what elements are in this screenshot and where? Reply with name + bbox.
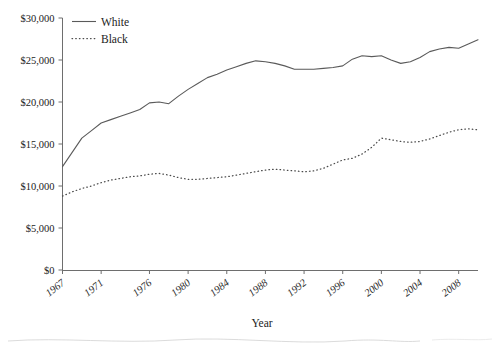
y-tick-label: $30,000 [20, 13, 54, 24]
x-tick-label: 1984 [208, 276, 232, 298]
x-tick-label: 1971 [82, 277, 105, 299]
x-tick-label: 1996 [324, 276, 348, 298]
x-tick-label: 2000 [362, 276, 386, 298]
legend: White Black [72, 16, 129, 45]
x-axis-title: Year [251, 317, 272, 329]
figure-container: $0$5,000$10,000$15,000$20,000$25,000$30,… [0, 0, 495, 348]
x-tick-label: 1992 [285, 276, 309, 298]
legend-label-black: Black [101, 33, 128, 45]
y-axis-ticks [59, 18, 63, 270]
y-tick-label: $5,000 [26, 223, 55, 234]
line-chart: $0$5,000$10,000$15,000$20,000$25,000$30,… [0, 0, 495, 348]
scan-artifact-line-right [432, 339, 492, 340]
x-tick-label: 1980 [169, 276, 193, 298]
y-tick-label: $0 [44, 265, 55, 276]
series-line-white [63, 40, 479, 167]
x-tick-label: 2008 [440, 276, 464, 298]
y-tick-label: $20,000 [20, 97, 54, 108]
x-tick-label: 1976 [130, 276, 154, 298]
series-line-black [63, 129, 479, 196]
scan-artifact-line [8, 339, 420, 342]
x-tick-label: 1988 [246, 276, 270, 298]
y-tick-label: $10,000 [20, 181, 54, 192]
y-tick-label: $15,000 [20, 139, 54, 150]
x-tick-label: 1967 [43, 276, 67, 298]
y-axis-tick-labels: $0$5,000$10,000$15,000$20,000$25,000$30,… [20, 13, 54, 276]
x-axis-tick-labels: 1967197119761980198419881992199620002004… [43, 276, 463, 298]
legend-label-white: White [101, 16, 129, 28]
y-tick-label: $25,000 [20, 55, 54, 66]
x-tick-label: 2004 [401, 276, 425, 298]
